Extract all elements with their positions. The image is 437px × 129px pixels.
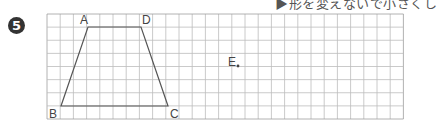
vertex-label-c: C <box>170 107 179 121</box>
vertex-label-d: D <box>142 13 151 27</box>
vertex-labels: ADCB <box>49 13 179 121</box>
vertex-label-a: A <box>80 13 88 27</box>
square-grid <box>47 14 403 119</box>
point-e-dot <box>237 65 240 68</box>
point-e-label: E <box>228 55 236 69</box>
vertex-label-b: B <box>49 107 57 121</box>
